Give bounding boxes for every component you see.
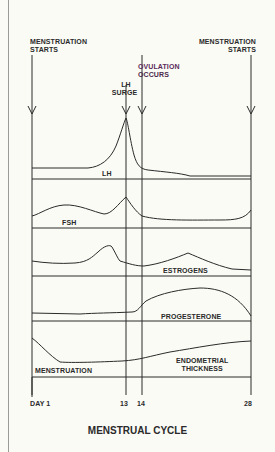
lh-label: LH <box>102 170 112 178</box>
estrogens-label: ESTROGENS <box>163 267 208 275</box>
menstruation-label: MENSTRUATION <box>35 367 92 375</box>
progesterone-label: PROGESTERONE <box>161 313 221 321</box>
ovulation-occurs-label: OVULATION OCCURS <box>138 63 180 79</box>
x-tick-day13: 13 <box>120 400 128 408</box>
x-tick-day14: 14 <box>137 400 145 408</box>
diagram-title: MENSTRUAL CYCLE <box>0 425 275 436</box>
endometrial-thickness-label: ENDOMETRIAL THICKNESS <box>176 357 228 373</box>
lh-surge-label: LH SURGE <box>114 81 138 97</box>
x-tick-day28: 28 <box>244 400 252 408</box>
fsh-label: FSH <box>62 219 76 227</box>
x-tick-day1: DAY 1 <box>30 400 50 408</box>
menstruation-starts-left-label: MENSTRUATION STARTS <box>30 38 87 54</box>
menstruation-starts-right-label: MENSTRUATION STARTS <box>218 38 256 54</box>
